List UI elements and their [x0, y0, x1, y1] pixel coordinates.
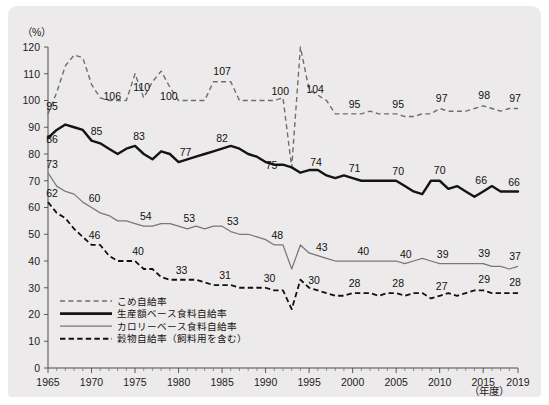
data-label-production: 86 — [46, 133, 58, 145]
legend: こめ自給率生産額ベース食料自給率カロリーベース食料自給率穀物自給率（飼料用を含む… — [60, 296, 247, 345]
x-axis-unit-label: （年度） — [469, 385, 509, 397]
x-tick-label: 1985 — [210, 376, 234, 388]
y-tick-label: 50 — [28, 228, 40, 240]
data-label-production: 70 — [392, 165, 404, 177]
data-label-grain: 31 — [219, 269, 231, 281]
data-label-calorie: 53 — [183, 212, 195, 224]
y-tick-label: 20 — [28, 308, 40, 320]
data-label-grain: 27 — [436, 280, 448, 292]
line-chart-svg: 0102030405060708090100110120 19651970197… — [0, 0, 549, 405]
data-label-calorie: 54 — [140, 210, 152, 222]
data-label-rice: 107 — [213, 65, 231, 77]
data-label-production: 83 — [133, 130, 145, 142]
data-label-calorie: 48 — [271, 229, 283, 241]
data-label-grain: 30 — [264, 272, 276, 284]
data-label-production: 66 — [508, 176, 520, 188]
y-tick-label: 120 — [22, 41, 40, 53]
data-label-production: 85 — [91, 125, 103, 137]
data-label-grain: 46 — [89, 229, 101, 241]
x-tick-label: 2019 — [506, 376, 530, 388]
plot-area: 0102030405060708090100110120 19651970197… — [0, 0, 549, 405]
x-tick-label: 1965 — [36, 376, 60, 388]
data-label-calorie: 39 — [478, 247, 490, 259]
data-label-production: 70 — [434, 164, 446, 176]
legend-label-0: こめ自給率 — [117, 296, 167, 307]
data-label-grain: 28 — [392, 277, 404, 289]
data-label-rice: 97 — [436, 92, 448, 104]
data-label-production: 82 — [216, 132, 228, 144]
y-tick-label: 10 — [28, 335, 40, 347]
legend-label-2: カロリーベース食料自給率 — [117, 321, 237, 332]
data-label-grain: 28 — [349, 277, 361, 289]
x-tick-label: 1990 — [254, 376, 278, 388]
data-label-grain: 40 — [132, 245, 144, 257]
data-label-production: 74 — [310, 156, 322, 168]
data-label-rice: 100 — [160, 90, 178, 102]
data-label-calorie: 53 — [227, 215, 239, 227]
legend-label-3: 穀物自給率（飼料用を含む） — [117, 333, 247, 344]
data-point-labels: 9510611010010710010495959798978685837782… — [46, 65, 521, 292]
data-label-rice: 95 — [349, 98, 361, 110]
x-tick-label: 1975 — [123, 376, 147, 388]
x-tick-labels: 1965197019751980198519901995200020052010… — [36, 376, 530, 388]
data-label-production: 77 — [180, 146, 192, 158]
y-tick-label: 30 — [28, 282, 40, 294]
data-label-grain: 28 — [509, 276, 521, 288]
data-label-grain: 62 — [46, 187, 58, 199]
data-label-calorie: 40 — [357, 245, 369, 257]
x-tick-label: 1970 — [80, 376, 104, 388]
x-tick-label: 2010 — [428, 376, 452, 388]
data-label-production: 75 — [266, 159, 278, 171]
y-tick-label: 100 — [22, 94, 40, 106]
data-label-calorie: 60 — [89, 192, 101, 204]
data-label-production: 66 — [475, 174, 487, 186]
data-label-rice: 110 — [133, 81, 150, 93]
series-line-production — [48, 125, 518, 197]
data-label-rice: 98 — [478, 89, 490, 101]
y-tick-label: 60 — [28, 201, 40, 213]
data-label-calorie: 39 — [437, 248, 449, 260]
x-tick-label: 2000 — [341, 376, 365, 388]
x-tick-label: 1980 — [167, 376, 191, 388]
data-label-production: 71 — [349, 162, 361, 174]
data-label-rice: 95 — [392, 98, 404, 110]
series-line-rice — [48, 47, 518, 167]
data-label-rice: 106 — [103, 90, 121, 102]
data-label-grain: 29 — [478, 273, 490, 285]
y-tick-label: 80 — [28, 148, 40, 160]
data-label-rice: 104 — [306, 83, 324, 95]
y-tick-label: 70 — [28, 175, 40, 187]
y-tick-label: 40 — [28, 255, 40, 267]
data-label-calorie: 73 — [46, 158, 58, 170]
y-tick-labels: 0102030405060708090100110120 — [22, 41, 40, 374]
data-label-grain: 33 — [176, 264, 188, 276]
data-label-calorie: 40 — [400, 248, 412, 260]
data-label-grain: 30 — [308, 274, 320, 286]
chart-figure: 0102030405060708090100110120 19651970197… — [0, 0, 549, 405]
y-tick-label: 110 — [23, 68, 40, 80]
y-tick-label: 90 — [28, 121, 40, 133]
x-tick-label: 1995 — [297, 376, 321, 388]
x-tick-label: 2005 — [384, 376, 408, 388]
y-axis-unit-label: （%） — [22, 26, 51, 38]
legend-label-1: 生産額ベース食料自給率 — [117, 308, 227, 319]
data-label-calorie: 37 — [509, 250, 521, 262]
y-tick-label: 0 — [34, 362, 40, 374]
data-label-rice: 100 — [272, 85, 290, 97]
data-label-calorie: 43 — [316, 241, 328, 253]
data-label-rice: 95 — [46, 100, 58, 112]
data-label-rice: 97 — [509, 92, 521, 104]
